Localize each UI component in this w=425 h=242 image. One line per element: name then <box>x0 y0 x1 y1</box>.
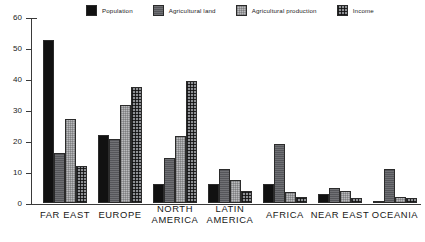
legend-swatch-income-icon <box>337 5 348 16</box>
bar-income <box>351 198 362 203</box>
bar-income <box>76 166 87 203</box>
legend-item-income: Income <box>337 5 374 16</box>
legend-swatch-agricultural-production-icon <box>236 5 247 16</box>
y-tick-0: 0 <box>26 204 31 205</box>
legend-swatch-population-icon <box>86 5 97 16</box>
bar-agricultural-production <box>120 105 131 203</box>
legend-label-agricultural-land: Agricultural land <box>169 7 216 14</box>
bar-agricultural-land <box>274 144 285 203</box>
y-tick-20: 20 <box>26 142 31 143</box>
legend-item-agricultural-land: Agricultural land <box>153 5 216 16</box>
bar-agricultural-production <box>230 180 241 203</box>
y-tick-label-10: 10 <box>0 169 22 177</box>
bar-group-africa <box>263 17 307 203</box>
plot-area: 0102030405060 <box>31 18 421 204</box>
chart-legend: Population Agricultural land Agricultura… <box>86 3 421 17</box>
y-tick-30: 30 <box>26 111 31 112</box>
y-tick-label-20: 20 <box>0 138 22 146</box>
bar-population <box>43 40 54 203</box>
bar-income <box>186 81 197 203</box>
bar-group-latin-america <box>208 17 252 203</box>
bar-agricultural-land <box>384 169 395 203</box>
bar-income <box>406 198 417 203</box>
y-axis-top-cap <box>31 18 37 19</box>
legend-label-agricultural-production: Agricultural production <box>252 7 317 14</box>
y-tick-60: 60 <box>26 18 31 19</box>
bar-agricultural-land <box>219 169 230 203</box>
bar-chart: Population Agricultural land Agricultura… <box>0 0 425 242</box>
bar-population <box>373 201 384 203</box>
legend-item-agricultural-production: Agricultural production <box>236 5 317 16</box>
legend-label-income: Income <box>353 7 374 14</box>
y-tick-label-60: 60 <box>0 14 22 22</box>
bar-population <box>98 135 109 203</box>
y-tick-label-30: 30 <box>0 107 22 115</box>
legend-item-population: Population <box>86 5 133 16</box>
bar-population <box>263 184 274 203</box>
bar-income <box>241 191 252 203</box>
bar-agricultural-production <box>175 136 186 203</box>
bar-income <box>296 197 307 203</box>
bar-agricultural-land <box>54 153 65 203</box>
bar-group-europe <box>98 17 142 203</box>
bar-agricultural-production <box>340 191 351 203</box>
bar-population <box>153 184 164 203</box>
y-axis-line <box>31 18 32 205</box>
bar-group-oceania <box>373 17 417 203</box>
bar-agricultural-land <box>164 158 175 203</box>
bar-group-north-america <box>153 17 197 203</box>
y-tick-40: 40 <box>26 80 31 81</box>
bar-population <box>208 184 219 203</box>
y-tick-50: 50 <box>26 49 31 50</box>
bar-group-near-east <box>318 17 362 203</box>
legend-label-population: Population <box>102 7 133 14</box>
bar-agricultural-land <box>329 188 340 204</box>
bar-agricultural-production <box>65 119 76 203</box>
y-tick-label-40: 40 <box>0 76 22 84</box>
category-label-oceania: OCEANIA <box>357 210 425 221</box>
y-tick-label-50: 50 <box>0 45 22 53</box>
bar-group-far-east <box>43 17 87 203</box>
legend-swatch-agricultural-land-icon <box>153 5 164 16</box>
y-tick-10: 10 <box>26 173 31 174</box>
bar-population <box>318 194 329 203</box>
bar-agricultural-land <box>109 139 120 203</box>
bar-income <box>131 87 142 203</box>
bar-agricultural-production <box>285 192 296 203</box>
bar-agricultural-production <box>395 197 406 203</box>
y-tick-label-0: 0 <box>0 200 22 208</box>
